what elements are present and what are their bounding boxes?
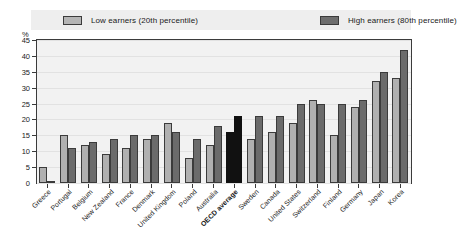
- bar-low-earners: [351, 107, 359, 183]
- bar-group: [39, 40, 55, 183]
- y-axis-tick-mark: [32, 88, 36, 89]
- bar-high-earners: [317, 104, 325, 183]
- bar-low-earners: [289, 123, 297, 183]
- bar-low-earners: [309, 100, 317, 183]
- y-axis-tick-label: 10: [22, 147, 30, 156]
- bar-high-earners: [234, 116, 242, 183]
- bar-group: [60, 40, 76, 183]
- x-axis-label-slot: OECD average: [224, 186, 245, 244]
- bar-high-earners: [214, 126, 222, 183]
- bar-group: [164, 40, 180, 183]
- bar-low-earners: [185, 158, 193, 183]
- legend-swatch-low-earners-icon: [63, 16, 82, 25]
- bar-group: [81, 40, 97, 183]
- bar-group: [247, 40, 263, 183]
- bar-series-container: [37, 40, 411, 183]
- y-axis-tick-label: 30: [22, 83, 30, 92]
- bar-group: [268, 40, 284, 183]
- bar-group: [143, 40, 159, 183]
- bar-group: [330, 40, 346, 183]
- bar-low-earners: [164, 123, 172, 183]
- legend-item-low-earners: Low earners (20th percentile): [63, 16, 198, 25]
- x-axis-label-slot: Germany: [349, 186, 370, 244]
- y-axis-tick-mark: [32, 151, 36, 152]
- bar-group: [351, 40, 367, 183]
- bar-group: [289, 40, 305, 183]
- bar-low-earners: [102, 154, 110, 183]
- bar-low-earners: [392, 78, 400, 183]
- bar-high-earners: [172, 132, 180, 183]
- bar-low-earners: [39, 167, 47, 183]
- bar-group: [102, 40, 118, 183]
- x-axis-label-slot: Japan: [369, 186, 390, 244]
- bar-low-earners: [226, 132, 234, 183]
- bar-high-earners: [276, 116, 284, 183]
- x-axis-label-slot: Poland: [182, 186, 203, 244]
- bar-high-earners: [47, 181, 55, 183]
- bar-high-earners: [110, 139, 118, 183]
- bar-group: [122, 40, 138, 183]
- bar-group: [185, 40, 201, 183]
- bar-low-earners: [122, 148, 130, 183]
- x-axis-label: Korea: [387, 188, 405, 206]
- legend-swatch-high-earners-icon: [320, 16, 339, 25]
- bar-high-earners: [297, 104, 305, 183]
- x-axis-labels: GreecePortugalBelgiumNew ZealandFranceDe…: [37, 186, 411, 244]
- y-axis-tick-label: 15: [22, 131, 30, 140]
- bar-high-earners: [255, 116, 263, 183]
- x-axis-label-slot: Sweden: [245, 186, 266, 244]
- x-axis-label-slot: France: [120, 186, 141, 244]
- chart-legend: Low earners (20th percentile) High earne…: [31, 10, 411, 30]
- x-axis-label-slot: United Kingdom: [162, 186, 183, 244]
- bar-low-earners: [247, 139, 255, 183]
- bar-high-earners: [338, 104, 346, 183]
- y-axis-tick-mark: [32, 119, 36, 120]
- legend-label-high-earners: High earners (80th percentile): [348, 16, 457, 25]
- y-axis-tick-mark: [32, 167, 36, 168]
- bar-low-earners: [206, 145, 214, 183]
- bar-high-earners: [89, 142, 97, 183]
- y-axis-tick-label: 45: [22, 36, 30, 45]
- bar-group: [309, 40, 325, 183]
- y-axis-tick-mark: [32, 104, 36, 105]
- x-axis-label-slot: New Zealand: [99, 186, 120, 244]
- bar-low-earners: [330, 135, 338, 183]
- y-axis-tick-label: 0: [26, 179, 30, 188]
- bar-high-earners: [380, 72, 388, 183]
- y-axis-tick-label: 35: [22, 67, 30, 76]
- y-axis-tick-mark: [32, 56, 36, 57]
- x-axis-label-slot: Portugal: [58, 186, 79, 244]
- bar-high-earners: [193, 139, 201, 183]
- y-axis-tick-label: 20: [22, 115, 30, 124]
- bar-low-earners: [143, 139, 151, 183]
- y-axis-tick-mark: [32, 40, 36, 41]
- y-axis-tick-label: 25: [22, 99, 30, 108]
- y-axis-tick-label: 5: [26, 163, 30, 172]
- bar-high-earners: [68, 148, 76, 183]
- bar-low-earners: [372, 81, 380, 183]
- bar-low-earners: [81, 145, 89, 183]
- bar-group: [372, 40, 388, 183]
- bar-group: [226, 40, 242, 183]
- bar-group: [206, 40, 222, 183]
- x-axis-label-slot: Korea: [390, 186, 411, 244]
- x-axis-label: Japan: [366, 188, 385, 207]
- y-axis-tick-label: 40: [22, 51, 30, 60]
- legend-item-high-earners: High earners (80th percentile): [320, 16, 457, 25]
- bar-high-earners: [400, 50, 408, 183]
- x-axis-label-slot: Greece: [37, 186, 58, 244]
- x-axis-label-slot: Switzerland: [307, 186, 328, 244]
- legend-label-low-earners: Low earners (20th percentile): [91, 16, 198, 25]
- y-axis-tick-mark: [32, 72, 36, 73]
- bar-high-earners: [359, 100, 367, 183]
- x-axis-label-slot: Finland: [328, 186, 349, 244]
- bar-high-earners: [130, 135, 138, 183]
- bar-high-earners: [151, 135, 159, 183]
- bar-low-earners: [60, 135, 68, 183]
- bar-group: [392, 40, 408, 183]
- y-axis: 454035302520151050: [0, 39, 36, 184]
- y-axis-tick-mark: [32, 135, 36, 136]
- bar-low-earners: [268, 132, 276, 183]
